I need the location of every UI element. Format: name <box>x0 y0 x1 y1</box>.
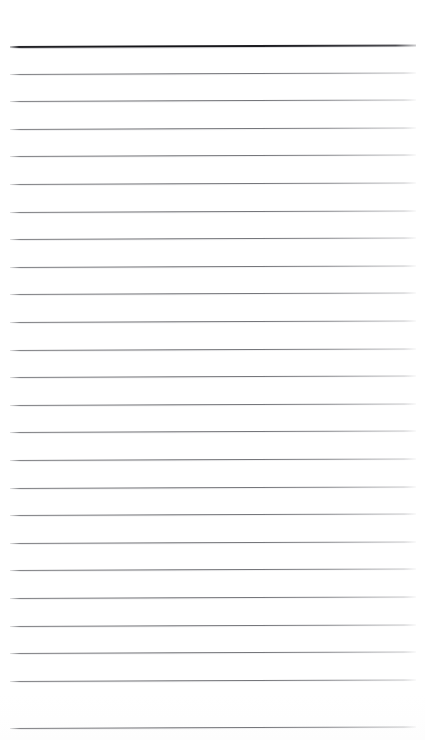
ruled-line-shadow <box>10 128 416 131</box>
ruled-line <box>0 320 425 326</box>
ruled-line <box>0 237 425 243</box>
ruled-line <box>0 127 425 133</box>
ruled-line-shadow <box>10 211 416 214</box>
ruled-line <box>0 486 425 492</box>
ruled-line-shadow <box>10 349 416 352</box>
ruled-line-shadow <box>10 542 416 545</box>
ruled-line-shadow <box>10 100 416 103</box>
ruled-line-shadow <box>10 625 416 628</box>
ruled-line <box>0 154 425 160</box>
ruled-line-shadow <box>10 238 416 241</box>
ruled-line <box>0 44 425 50</box>
ruled-line <box>0 265 425 271</box>
ruled-line-shadow <box>10 46 416 49</box>
ruled-line <box>0 403 425 409</box>
ruled-line-shadow <box>10 487 416 490</box>
ruled-line-shadow <box>10 266 416 269</box>
ruled-line <box>0 348 425 354</box>
ruled-line-shadow <box>10 680 416 683</box>
ruled-line <box>0 210 425 216</box>
ruled-line-shadow <box>10 727 416 730</box>
ruled-line-shadow <box>10 376 416 379</box>
ruled-line-shadow <box>10 404 416 407</box>
ruled-line-shadow <box>10 569 416 572</box>
ruled-line <box>0 513 425 519</box>
ruled-line <box>0 596 425 602</box>
ruled-line-shadow <box>10 293 416 296</box>
ruled-line <box>0 624 425 630</box>
ruled-line <box>0 430 425 436</box>
ruled-line <box>0 292 425 298</box>
ruled-line <box>0 72 425 78</box>
ruled-line <box>0 651 425 657</box>
ruled-line <box>0 568 425 574</box>
ruled-line-shadow <box>10 155 416 158</box>
ruled-line <box>0 458 425 464</box>
ruled-line-shadow <box>10 514 416 517</box>
ruled-line <box>0 726 425 732</box>
ruled-line <box>0 541 425 547</box>
ruled-line-shadow <box>10 183 416 186</box>
ruled-line-shadow <box>10 652 416 655</box>
ruled-line <box>0 99 425 105</box>
ruled-line-shadow <box>10 597 416 600</box>
ruled-line-shadow <box>10 431 416 434</box>
notepad-page <box>0 0 425 740</box>
ruled-line <box>0 679 425 685</box>
ruled-line <box>0 182 425 188</box>
ruled-line-shadow <box>10 73 416 76</box>
ruled-line <box>0 375 425 381</box>
ruled-line-shadow <box>10 321 416 324</box>
ruled-line-shadow <box>10 459 416 462</box>
